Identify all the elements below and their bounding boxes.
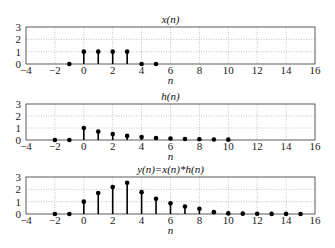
plot-title: x(n) xyxy=(161,13,180,26)
x-tick-label: 8 xyxy=(197,64,203,76)
y-tick-label: 1 xyxy=(16,122,22,134)
stem-marker xyxy=(96,129,101,134)
x-axis-label: n xyxy=(168,224,174,236)
x-tick-label: 8 xyxy=(197,214,203,226)
x-tick-label: 14 xyxy=(281,140,293,152)
plot-h-of-n: −4−202468101214160123h(n)n xyxy=(16,90,322,162)
y-tick-label: 2 xyxy=(16,33,22,45)
stem-marker xyxy=(110,185,115,190)
stem-marker xyxy=(226,211,231,216)
stem-marker xyxy=(240,211,245,216)
stem-marker xyxy=(154,196,159,201)
stem-marker xyxy=(154,62,159,67)
stem-marker xyxy=(168,136,173,141)
x-tick-label: 4 xyxy=(139,140,145,152)
x-axis-label: n xyxy=(168,74,174,86)
stem-marker xyxy=(255,211,260,216)
plot-title: h(n) xyxy=(161,90,180,103)
y-tick-label: 0 xyxy=(16,134,22,146)
stem-marker xyxy=(125,49,130,54)
y-tick-label: 3 xyxy=(16,98,22,110)
stem-marker xyxy=(183,204,188,209)
y-tick-label: 3 xyxy=(16,171,22,183)
plot-x-of-n: −4−202468101214160123x(n)n xyxy=(16,13,322,86)
stem-marker xyxy=(168,201,173,206)
x-tick-label: 16 xyxy=(310,140,322,152)
y-tick-label: 2 xyxy=(16,110,22,122)
stem-plot-figure: −4−202468101214160123x(n)n−4−20246810121… xyxy=(0,0,335,248)
x-tick-label: 14 xyxy=(281,64,293,76)
y-tick-label: 1 xyxy=(16,196,22,208)
stem-marker xyxy=(82,199,87,204)
stem-marker xyxy=(139,135,144,140)
plot-y-of-n: −4−202468101214160123y(n)=x(n)*h(n)n xyxy=(16,163,322,236)
stem-marker xyxy=(125,180,130,185)
x-tick-label: 0 xyxy=(81,214,87,226)
x-tick-label: 16 xyxy=(310,64,322,76)
x-tick-label: 12 xyxy=(252,64,263,76)
x-tick-label: −4 xyxy=(20,214,32,226)
stem-marker xyxy=(139,190,144,195)
stem-marker xyxy=(183,137,188,142)
stem-marker xyxy=(125,134,130,139)
stem-marker xyxy=(284,212,289,217)
stem-marker xyxy=(82,49,87,54)
x-tick-label: 2 xyxy=(110,140,116,152)
stem-marker xyxy=(139,62,144,67)
stem-marker xyxy=(96,191,101,196)
x-tick-label: 2 xyxy=(110,214,116,226)
x-tick-label: 8 xyxy=(197,140,203,152)
x-tick-label: −4 xyxy=(20,140,32,152)
stem-marker xyxy=(226,137,231,142)
stem-marker xyxy=(110,49,115,54)
stem-marker xyxy=(298,212,303,217)
stem-marker xyxy=(53,212,58,217)
stem-marker xyxy=(67,138,72,143)
x-tick-label: 12 xyxy=(252,140,263,152)
x-tick-label: 0 xyxy=(81,64,87,76)
stem-marker xyxy=(96,49,101,54)
stem-marker xyxy=(197,137,202,142)
y-tick-label: 2 xyxy=(16,183,22,195)
x-tick-label: 10 xyxy=(223,64,235,76)
x-tick-label: −4 xyxy=(20,64,32,76)
stem-marker xyxy=(67,212,72,217)
y-tick-label: 0 xyxy=(16,208,22,220)
stem-marker xyxy=(110,132,115,137)
x-tick-label: −2 xyxy=(49,64,61,76)
x-tick-label: 0 xyxy=(81,140,87,152)
stem-marker xyxy=(197,206,202,211)
stem-marker xyxy=(269,212,274,217)
y-tick-label: 3 xyxy=(16,21,22,33)
stem-marker xyxy=(53,138,58,143)
stem-marker xyxy=(212,137,217,142)
plot-title: y(n)=x(n)*h(n) xyxy=(136,163,204,176)
stem-marker xyxy=(154,136,159,141)
y-tick-label: 0 xyxy=(16,58,22,70)
x-axis-label: n xyxy=(168,150,174,162)
x-tick-label: 10 xyxy=(223,214,235,226)
y-tick-label: 1 xyxy=(16,46,22,58)
stem-marker xyxy=(82,126,87,131)
x-tick-label: 4 xyxy=(139,214,145,226)
stem-marker xyxy=(67,62,72,67)
x-tick-label: 2 xyxy=(110,64,116,76)
x-tick-label: 16 xyxy=(310,214,322,226)
stem-marker xyxy=(212,210,217,215)
